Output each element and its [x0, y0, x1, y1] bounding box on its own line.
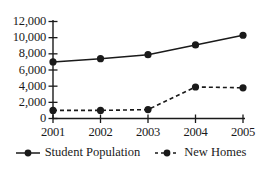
y-axis-tick-label: 0	[40, 112, 46, 125]
legend-entry-2[interactable]: New Homes	[154, 146, 246, 159]
line-chart: 02,0004,0006,0008,00010,00012,000 200120…	[0, 0, 261, 169]
data-point-marker	[239, 84, 246, 91]
data-point-marker	[192, 41, 199, 48]
x-axis-tick-label: 2002	[77, 126, 125, 139]
data-point-marker	[97, 55, 104, 62]
chart-legend: Student PopulationNew Homes	[0, 146, 261, 159]
data-point-marker	[49, 107, 56, 114]
y-axis-tick-label: 12,000	[13, 15, 46, 28]
x-axis-tick-label: 2003	[124, 126, 172, 139]
legend-label: Student Population	[45, 146, 141, 159]
y-axis-tick-label: 8,000	[19, 47, 46, 60]
data-point-marker	[97, 107, 104, 114]
y-axis-tick-label: 10,000	[13, 31, 46, 44]
x-axis-tick-label: 2005	[219, 126, 261, 139]
data-series-group	[49, 32, 246, 114]
y-axis-tick-label: 4,000	[19, 80, 46, 93]
legend-marker-icon	[154, 147, 180, 159]
y-axis-tick-label: 2,000	[19, 96, 46, 109]
x-axis-tick-label: 2001	[29, 126, 77, 139]
legend-entry-1[interactable]: Student Population	[15, 146, 141, 159]
x-axis-tick-label: 2004	[172, 126, 220, 139]
data-point-marker	[239, 32, 246, 39]
legend-label: New Homes	[184, 146, 246, 159]
data-point-marker	[192, 83, 199, 90]
data-point-marker	[49, 58, 56, 65]
data-point-marker	[144, 51, 151, 58]
data-point-marker	[144, 106, 151, 113]
y-axis-tick-label: 6,000	[19, 64, 46, 77]
legend-marker-icon	[15, 147, 41, 159]
